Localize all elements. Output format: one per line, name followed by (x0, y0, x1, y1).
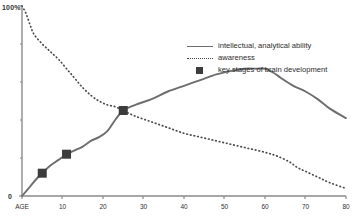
key-stage-markers (38, 106, 128, 178)
key-stage-marker (38, 169, 47, 178)
legend-label-intellectual: intellectual, analytical ability (213, 42, 311, 50)
legend-item-intellectual: intellectual, analytical ability (186, 40, 352, 52)
legend-label-awareness: awareness (213, 54, 255, 62)
x-tick-label-age: AGE (15, 204, 29, 211)
y-axis-min-label: 0 (8, 193, 12, 200)
axes-group (19, 6, 346, 199)
awareness-curve (22, 6, 346, 188)
key-stage-marker (119, 106, 128, 115)
x-tick-label-30: 30 (140, 204, 147, 211)
x-tick-label-10: 10 (59, 204, 66, 211)
x-tick-label-40: 40 (180, 204, 187, 211)
solid-line-icon (186, 40, 213, 52)
x-tick-label-70: 70 (302, 204, 309, 211)
x-tick-label-60: 60 (261, 204, 268, 211)
dotted-line-icon (186, 52, 213, 64)
x-tick-label-80: 80 (342, 204, 349, 211)
chart-legend: intellectual, analytical ability awarene… (186, 40, 352, 76)
legend-item-key-stages: key stages of brain development (186, 64, 352, 76)
x-tick-label-50: 50 (221, 204, 228, 211)
y-axis-max-label: 100% (2, 4, 21, 11)
key-stage-marker (62, 150, 71, 159)
square-marker-icon (186, 64, 213, 76)
legend-item-awareness: awareness (186, 52, 352, 64)
chart-plot-area (0, 0, 352, 218)
legend-label-key-stages: key stages of brain development (213, 66, 327, 74)
brain-development-chart: 100% 0 AGE1020304050607080 intellectual,… (0, 0, 352, 218)
x-tick-label-20: 20 (99, 204, 106, 211)
intellectual-ability-curve (22, 68, 346, 196)
